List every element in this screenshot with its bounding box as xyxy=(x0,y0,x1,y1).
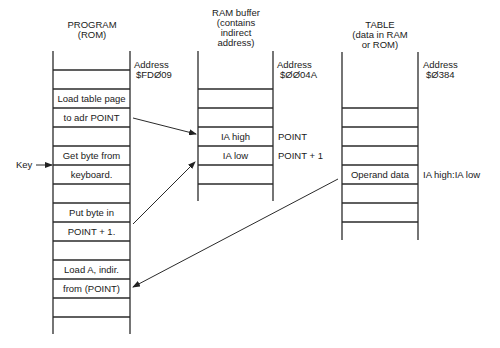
ram-cell-ia-high: IA high xyxy=(198,127,273,146)
program-cell: keyboard. xyxy=(53,165,130,184)
key-label: Key xyxy=(16,159,32,171)
program-cell: from (POINT) xyxy=(53,279,130,298)
arrow-point1-to-ia-low xyxy=(133,162,195,224)
program-cell: Load table page xyxy=(53,89,130,108)
arrow-operand-to-load xyxy=(133,179,338,287)
program-cell: POINT + 1. xyxy=(53,222,130,241)
program-cell: to adr POINT xyxy=(53,108,130,127)
table-side-label: IA high:IA low xyxy=(423,165,480,184)
ram-side-label-point-plus-1: POINT + 1 xyxy=(278,146,323,165)
table-cell-operand-data: Operand data xyxy=(342,165,418,184)
program-cell: Put byte in xyxy=(53,203,130,222)
arrow-point-to-ia-high xyxy=(133,118,196,134)
ram-cell-ia-low: IA low xyxy=(198,146,273,165)
program-cell: Get byte from xyxy=(53,146,130,165)
program-cell: Load A, indir. xyxy=(53,260,130,279)
ram-side-label-point: POINT xyxy=(278,127,307,146)
